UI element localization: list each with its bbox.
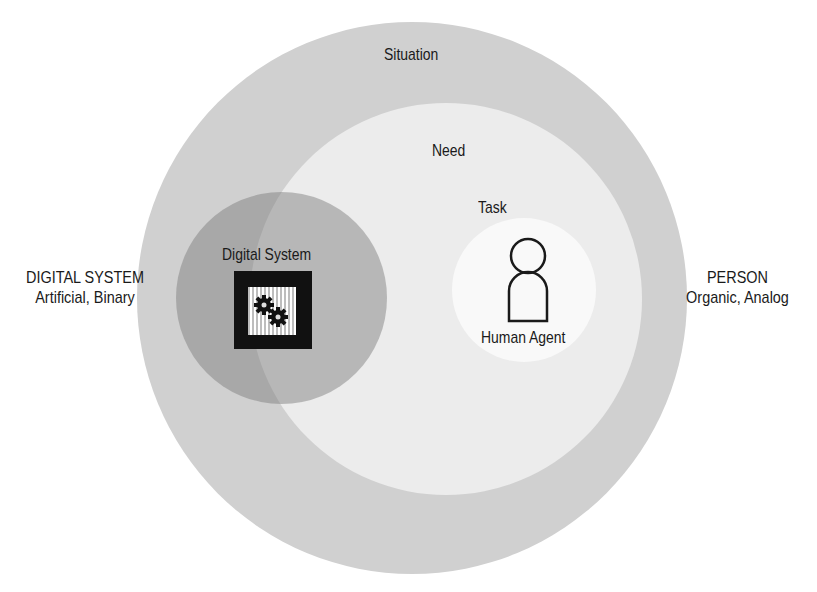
digital-system-subtitle: Artificial, Binary: [17, 288, 153, 308]
digital-system-label: Digital System: [222, 245, 311, 265]
human-agent-label: Human Agent: [481, 328, 565, 348]
situation-label: Situation: [384, 45, 438, 65]
person-side-label: PERSON Organic, Analog: [672, 268, 804, 308]
digital-system-title: DIGITAL SYSTEM: [17, 268, 153, 288]
person-title: PERSON: [672, 268, 804, 288]
need-label: Need: [432, 141, 465, 161]
person-subtitle: Organic, Analog: [672, 288, 804, 308]
task-label: Task: [478, 198, 507, 218]
gears-binary-icon: [234, 271, 312, 349]
person-icon: [505, 237, 551, 323]
digital-system-side-label: DIGITAL SYSTEM Artificial, Binary: [17, 268, 153, 308]
